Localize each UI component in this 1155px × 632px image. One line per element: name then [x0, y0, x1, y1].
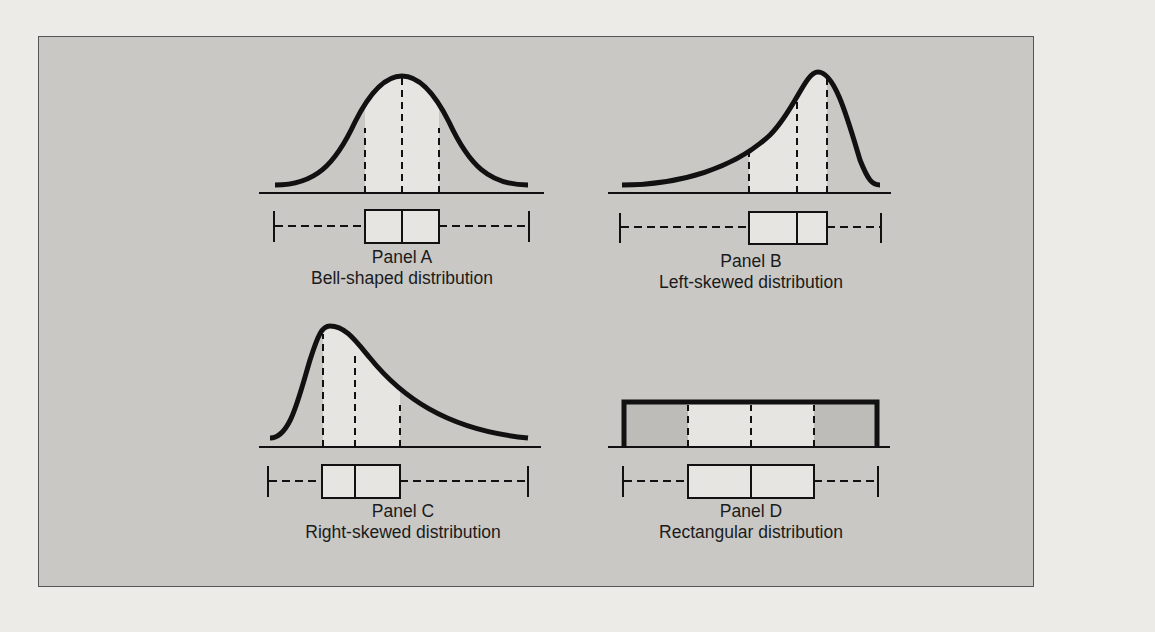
- panel-c-chart: [259, 326, 541, 498]
- panel-b-iqr-fill: [622, 72, 880, 193]
- panel-a-subtitle: Bell-shaped distribution: [311, 268, 493, 289]
- panel-d-boxplot: [623, 465, 878, 498]
- panel-d-subtitle: Rectangular distribution: [659, 522, 843, 543]
- panel-c-title: Panel C: [372, 501, 434, 522]
- panel-b-boxplot: [620, 212, 881, 244]
- distribution-figure: [0, 0, 1155, 632]
- panel-c-subtitle: Right-skewed distribution: [305, 522, 501, 543]
- panel-b-subtitle: Left-skewed distribution: [659, 272, 843, 293]
- panel-a-boxplot: [274, 210, 529, 243]
- panel-a-chart: [259, 76, 544, 243]
- panel-b-title: Panel B: [720, 251, 781, 272]
- panel-d-title: Panel D: [720, 501, 782, 522]
- panel-b-chart: [608, 72, 891, 244]
- panel-d-chart: [608, 402, 890, 498]
- panel-c-boxplot: [268, 465, 528, 498]
- panel-a-title: Panel A: [372, 247, 432, 268]
